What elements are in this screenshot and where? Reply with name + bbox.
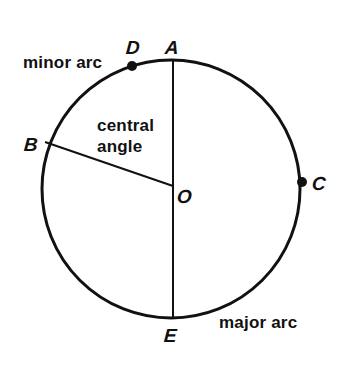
point-O-label: O — [176, 187, 192, 206]
point-C-label: C — [311, 174, 326, 193]
point-C-dot — [297, 177, 307, 187]
circle — [42, 60, 300, 318]
point-E-label: E — [163, 326, 177, 345]
point-A-label: A — [164, 38, 179, 57]
point-B-label: B — [23, 135, 38, 154]
circle-diagram: minor arc D A B central angle O C E majo… — [0, 0, 338, 371]
point-D-dot — [127, 61, 137, 71]
point-D-label: D — [125, 38, 140, 57]
central-angle-label-line2: angle — [97, 138, 142, 155]
minor-arc-label: minor arc — [23, 54, 102, 71]
central-angle-label-line1: central — [97, 117, 154, 134]
major-arc-label: major arc — [219, 314, 297, 331]
